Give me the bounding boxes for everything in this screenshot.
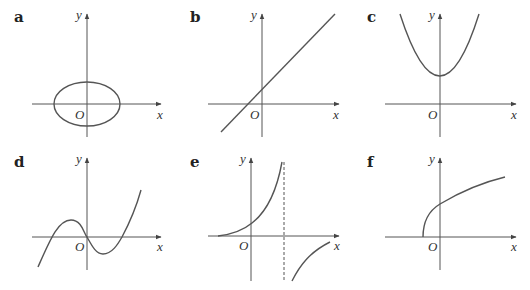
panel-a: a y x O	[14, 7, 163, 137]
panel-label: c	[367, 8, 376, 26]
y-label: y	[427, 7, 435, 22]
panel-f: f y x O	[367, 151, 517, 270]
panel-label: a	[14, 8, 24, 26]
x-label: x	[156, 239, 163, 254]
panel-d: d y x O	[14, 151, 163, 270]
cubic-curve	[38, 190, 141, 267]
x-label: x	[332, 107, 339, 122]
panel-e: e y x O	[190, 151, 340, 281]
y-label: y	[74, 7, 82, 22]
origin-label: O	[75, 239, 85, 254]
x-label: x	[510, 239, 517, 254]
x-label: x	[333, 238, 340, 253]
curve-right-branch	[292, 242, 330, 281]
panel-c: c y x O	[367, 7, 517, 137]
panel-label: d	[14, 153, 25, 171]
origin-label: O	[75, 107, 85, 122]
x-label: x	[510, 107, 517, 122]
y-label: y	[427, 151, 435, 166]
panel-label: f	[367, 153, 375, 171]
origin-label: O	[239, 238, 249, 253]
x-label: x	[156, 107, 163, 122]
panel-label: e	[190, 153, 200, 171]
origin-label: O	[250, 107, 260, 122]
y-label: y	[74, 151, 82, 166]
y-label: y	[249, 7, 257, 22]
curve-left-branch	[218, 162, 282, 236]
sqrt-curve	[423, 177, 505, 237]
panel-label: b	[190, 8, 201, 26]
y-label: y	[238, 151, 246, 166]
origin-label: O	[428, 107, 438, 122]
graphs-figure: a y x O b y x O c y x O d y x O e	[0, 0, 530, 290]
origin-label: O	[428, 239, 438, 254]
panel-b: b y x O	[190, 7, 339, 137]
line-curve	[221, 14, 335, 132]
